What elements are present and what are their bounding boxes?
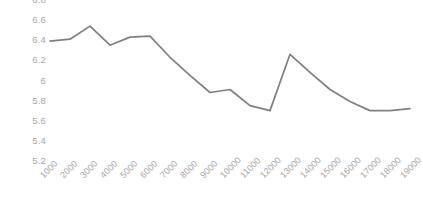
y-axis-tick-label: 6 xyxy=(2,76,46,86)
plot-area xyxy=(50,11,410,172)
x-axis: 1000200030004000500060007000800090001000… xyxy=(50,173,410,221)
y-axis-tick-label: 6.4 xyxy=(2,35,46,45)
y-axis-tick-label: 6.2 xyxy=(2,55,46,65)
y-axis-tick-label: 5.8 xyxy=(2,96,46,106)
y-axis-tick-label: 5.2 xyxy=(2,156,46,166)
y-axis-tick-label: 5.4 xyxy=(2,136,46,146)
y-axis-tick-label: 5.6 xyxy=(2,116,46,126)
y-axis-tick-label: 6.6 xyxy=(2,15,46,25)
y-axis-tick-label: 6.8 xyxy=(2,0,46,5)
y-axis: 6.86.66.46.265.85.65.45.2 xyxy=(0,0,46,172)
series-line xyxy=(50,11,410,172)
